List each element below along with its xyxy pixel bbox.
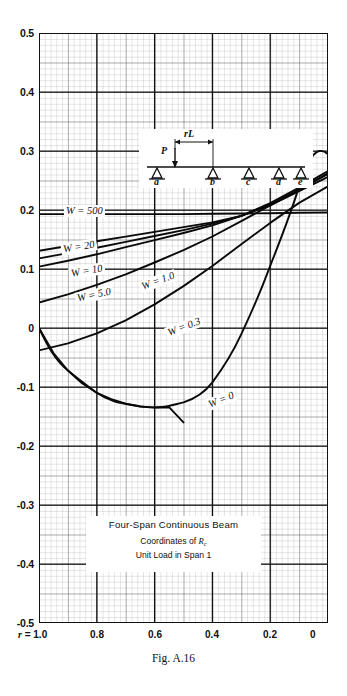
x-tick-3: 0.4 [192,629,232,640]
figure-caption: Fig. A.16 [0,652,347,664]
x-tick-2: 0.6 [135,629,175,640]
y-tick-10: -0.5 [0,618,34,628]
y-tick-4: 0.1 [0,264,34,274]
y-tick-1: 0.4 [0,87,34,97]
y-tick-6: -0.1 [0,382,34,392]
x-tick-4: 0.2 [250,629,290,640]
y-tick-9: -0.4 [0,559,34,569]
plot-area: P rL a b c d e W = 500 W = 20 W = 10 W =… [39,33,328,623]
plot-border [39,33,328,623]
figure-root: P rL a b c d e W = 500 W = 20 W = 10 W =… [0,0,347,696]
y-tick-3: 0.2 [0,205,34,215]
y-tick-7: -0.2 [0,441,34,451]
x-tick-0-value: = 1.0 [22,629,47,640]
y-tick-0: 0.5 [0,28,34,38]
x-tick-5: 0 [310,629,340,640]
y-tick-8: -0.3 [0,500,34,510]
y-tick-2: 0.3 [0,146,34,156]
x-tick-1: 0.8 [77,629,117,640]
y-tick-5: 0 [0,323,34,333]
x-tick-0: r = 1.0 [18,629,78,640]
